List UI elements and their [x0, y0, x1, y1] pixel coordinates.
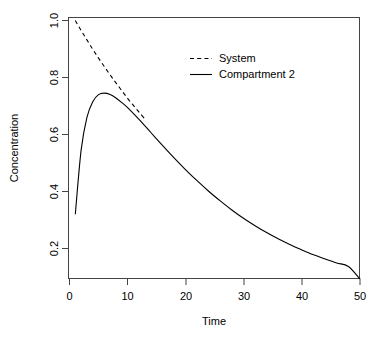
x-tick-label: 0	[66, 290, 72, 302]
y-tick-label: 0.6	[48, 127, 60, 142]
y-axis-title: Concentration	[8, 114, 20, 183]
y-axis-ticks	[62, 21, 69, 249]
chart-container: 1.0 0.8 0.6 0.4 0.2 0 10 20 30 40 50 Tim…	[0, 0, 371, 341]
x-tick-label: 30	[238, 290, 250, 302]
legend-label-system: System	[219, 52, 256, 64]
y-tick-label: 1.0	[48, 13, 60, 28]
series-line-compartment-2	[75, 93, 360, 279]
series-line-system	[75, 21, 145, 120]
x-tick-label: 20	[180, 290, 192, 302]
x-axis-tick-labels: 0 10 20 30 40 50	[66, 290, 366, 302]
x-tick-label: 10	[121, 290, 133, 302]
y-tick-label: 0.4	[48, 184, 60, 199]
y-tick-label: 0.8	[48, 70, 60, 85]
x-tick-label: 40	[296, 290, 308, 302]
legend-label-compartment-2: Compartment 2	[219, 68, 295, 80]
x-axis-title: Time	[202, 315, 226, 327]
y-tick-label: 0.2	[48, 241, 60, 256]
y-axis-tick-labels: 1.0 0.8 0.6 0.4 0.2	[48, 13, 60, 256]
plot-frame	[69, 18, 360, 279]
x-tick-label: 50	[354, 290, 366, 302]
x-axis-ticks	[70, 279, 361, 286]
chart-legend: System Compartment 2	[190, 52, 295, 80]
concentration-vs-time-plot: 1.0 0.8 0.6 0.4 0.2 0 10 20 30 40 50 Tim…	[0, 0, 371, 341]
